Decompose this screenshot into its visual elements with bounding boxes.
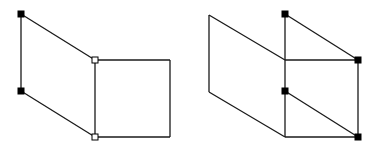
- hollow-handle-icon[interactable]: [92, 134, 98, 140]
- edge-line: [285, 91, 358, 137]
- hollow-handle-icon[interactable]: [92, 57, 98, 63]
- edge-line: [209, 92, 285, 137]
- selected-handle-icon[interactable]: [18, 11, 24, 17]
- selected-handle-icon[interactable]: [18, 88, 24, 94]
- diagram-canvas: [0, 0, 376, 147]
- edge-line: [285, 14, 358, 60]
- edge-line: [21, 14, 95, 60]
- selected-handle-icon[interactable]: [355, 57, 361, 63]
- selected-handle-icon[interactable]: [282, 88, 288, 94]
- selected-handle-icon[interactable]: [355, 134, 361, 140]
- selected-handle-icon[interactable]: [282, 11, 288, 17]
- edge-line: [21, 91, 95, 137]
- right-figure: [209, 11, 361, 140]
- left-figure: [18, 11, 170, 140]
- edge-line: [209, 15, 285, 60]
